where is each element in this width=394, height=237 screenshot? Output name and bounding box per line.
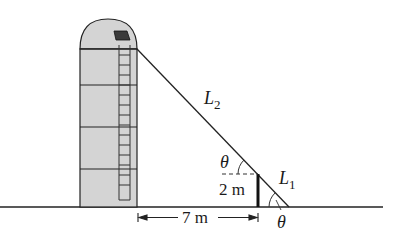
label-theta-top: θ — [220, 152, 229, 172]
silo-body — [80, 49, 137, 207]
label-L2: L2 — [203, 88, 221, 112]
silo-window-icon — [114, 31, 130, 40]
label-L1: L1 — [278, 168, 296, 192]
theta-leader — [276, 200, 281, 210]
wire-line — [137, 49, 289, 207]
silo-diagram: L2 L1 θ θ 2 m 7 m — [0, 0, 394, 237]
silo-dome — [80, 19, 137, 49]
label-theta-bottom: θ — [277, 212, 286, 232]
angle-arc-top — [238, 160, 244, 174]
label-post-height: 2 m — [219, 180, 245, 199]
angle-arc-bottom — [269, 193, 275, 207]
label-distance: 7 m — [182, 208, 208, 227]
